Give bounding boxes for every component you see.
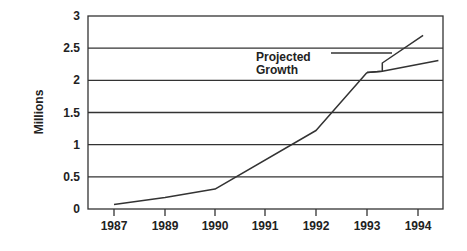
series-line	[367, 60, 438, 72]
x-tick-label: 1994	[405, 219, 432, 233]
x-tick-labels: 1987198919901991199219931994	[101, 219, 432, 233]
y-tick-label: 3	[73, 9, 80, 23]
y-tick-labels: 00.511.522.53	[63, 9, 80, 216]
y-tick-label: 2	[73, 73, 80, 87]
annotation-line-1: Projected	[256, 50, 311, 64]
y-axis-title: Millions	[32, 89, 46, 134]
series-line	[367, 35, 423, 72]
x-tick-label: 1993	[354, 219, 381, 233]
y-tick-label: 0.5	[63, 170, 80, 184]
y-tick-label: 1.5	[63, 106, 80, 120]
x-tick-label: 1987	[101, 219, 128, 233]
x-tick-label: 1992	[303, 219, 330, 233]
y-tick-label: 1	[73, 138, 80, 152]
y-tick-label: 2.5	[63, 41, 80, 55]
y-tick-label: 0	[73, 202, 80, 216]
line-chart: Millions 00.511.522.53 19871989199019911…	[0, 0, 467, 251]
x-tick-label: 1991	[252, 219, 279, 233]
annotation-line-2: Growth	[256, 63, 298, 77]
x-tick-label: 1990	[202, 219, 229, 233]
x-tick-label: 1989	[152, 219, 179, 233]
series-line	[114, 73, 367, 205]
x-ticks	[114, 209, 418, 216]
